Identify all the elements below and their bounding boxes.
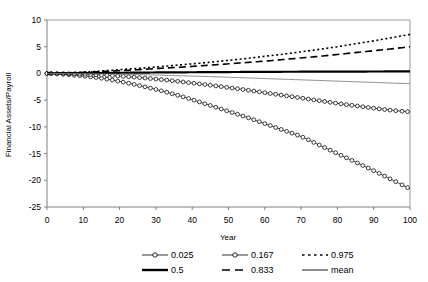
legend-label: 0.025 xyxy=(171,250,194,260)
legend-item-0.5[interactable]: 0.5 xyxy=(142,265,184,275)
series-marker xyxy=(192,81,196,85)
legend-item-mean[interactable]: mean xyxy=(302,265,354,275)
chart-legend: 0.0250.1670.9750.50.833mean xyxy=(142,250,354,275)
series-marker xyxy=(154,88,158,92)
series-marker xyxy=(203,83,207,87)
series-marker xyxy=(154,77,158,81)
legend-item-0.167[interactable]: 0.167 xyxy=(222,250,274,260)
series-0.5 xyxy=(47,71,410,73)
legend-item-0.975[interactable]: 0.975 xyxy=(302,250,354,260)
series-marker xyxy=(350,103,354,107)
series-marker xyxy=(170,92,174,96)
series-line xyxy=(47,47,410,74)
series-marker xyxy=(339,102,343,106)
series-marker xyxy=(406,186,410,190)
series-marker xyxy=(268,124,272,128)
legend-item-0.025[interactable]: 0.025 xyxy=(142,250,194,260)
series-marker xyxy=(406,110,410,114)
series-marker xyxy=(263,122,267,126)
y-tick-label: 10 xyxy=(32,15,42,25)
series-marker xyxy=(366,166,370,170)
series-line xyxy=(47,34,410,73)
x-axis-title: Year xyxy=(220,233,237,242)
series-marker xyxy=(268,92,272,96)
series-marker xyxy=(328,148,332,152)
series-marker xyxy=(143,76,147,80)
series-0.833 xyxy=(47,47,410,74)
series-marker xyxy=(301,135,305,139)
series-marker xyxy=(214,105,218,109)
series-marker xyxy=(345,156,349,160)
series-marker xyxy=(317,99,321,103)
series-marker xyxy=(290,95,294,99)
series-marker xyxy=(274,92,278,96)
series-marker xyxy=(149,77,153,81)
series-marker xyxy=(361,105,365,109)
series-marker xyxy=(241,88,245,92)
series-marker xyxy=(236,112,240,116)
y-tick-label: 5 xyxy=(36,42,41,52)
x-tick-label: 70 xyxy=(296,215,306,225)
series-marker xyxy=(127,81,131,85)
series-marker xyxy=(350,159,354,163)
x-tick-label: 20 xyxy=(115,215,125,225)
legend-label: 0.833 xyxy=(251,265,274,275)
series-marker xyxy=(225,85,229,89)
x-tick-label: 0 xyxy=(45,215,50,225)
x-tick-label: 50 xyxy=(224,215,234,225)
y-tick-label: -20 xyxy=(29,175,42,185)
series-marker xyxy=(252,89,256,93)
series-marker xyxy=(192,98,196,102)
y-tick-label: 0 xyxy=(36,68,41,78)
x-axis-ticks: 0102030405060708090100 xyxy=(45,207,418,225)
legend-marker xyxy=(233,253,237,257)
series-marker xyxy=(388,177,392,181)
series-marker xyxy=(383,174,387,178)
series-marker xyxy=(372,106,376,110)
series-marker xyxy=(257,90,261,94)
series-marker xyxy=(165,90,169,94)
series-marker xyxy=(290,131,294,135)
y-tick-label: -5 xyxy=(33,95,41,105)
x-tick-label: 30 xyxy=(151,215,161,225)
series-marker xyxy=(203,102,207,106)
series-marker xyxy=(208,104,212,108)
series-marker xyxy=(400,109,404,113)
series-marker xyxy=(394,109,398,113)
legend-marker xyxy=(153,253,157,257)
series-marker xyxy=(355,104,359,108)
series-marker xyxy=(149,86,153,90)
series-marker xyxy=(334,151,338,155)
series-0.975 xyxy=(47,34,410,73)
series-marker xyxy=(339,153,343,157)
series-marker xyxy=(121,80,125,84)
series-marker xyxy=(328,100,332,104)
series-marker xyxy=(230,86,234,90)
x-tick-label: 90 xyxy=(369,215,379,225)
series-marker xyxy=(323,146,327,150)
series-marker xyxy=(394,180,398,184)
series-marker xyxy=(279,93,283,97)
series-marker xyxy=(225,109,229,113)
series-marker xyxy=(400,183,404,187)
series-marker xyxy=(176,79,180,83)
series-marker xyxy=(388,108,392,112)
series-marker xyxy=(317,143,321,147)
series-marker xyxy=(176,93,180,97)
series-line xyxy=(47,71,410,73)
legend-label: 0.5 xyxy=(171,265,184,275)
series-marker xyxy=(121,74,125,78)
legend-item-0.833[interactable]: 0.833 xyxy=(222,265,274,275)
series-marker xyxy=(361,164,365,168)
series-marker xyxy=(138,76,142,80)
series-marker xyxy=(306,138,310,142)
y-tick-label: -10 xyxy=(29,122,42,132)
series-marker xyxy=(241,114,245,118)
series-marker xyxy=(132,82,136,86)
series-marker xyxy=(219,107,223,111)
y-tick-label: -25 xyxy=(29,202,42,212)
y-tick-label: -15 xyxy=(29,149,42,159)
series-marker xyxy=(230,111,234,115)
series-marker xyxy=(110,78,114,82)
series-marker xyxy=(116,79,120,83)
